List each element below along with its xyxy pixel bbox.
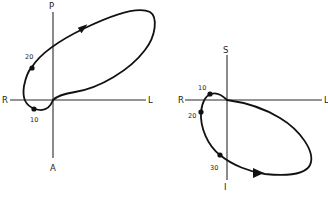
right-direction-arrow-icon: [253, 168, 264, 178]
left-point-20-marker: [29, 65, 34, 70]
left-axis-label-top: P: [49, 1, 54, 11]
left-loop-curve: [23, 10, 154, 110]
right-vector-loop-diagram: S I R L 10 20 30: [178, 45, 328, 192]
right-point-20-marker: [198, 109, 203, 114]
right-axis-label-bottom: I: [224, 182, 227, 192]
vector-loop-figure: P A R L 10 20 S I R L 10 20 30: [0, 0, 328, 205]
left-point-10-marker: [31, 106, 36, 111]
left-point-20-label: 20: [25, 53, 33, 61]
left-axis-label-right: L: [148, 95, 153, 105]
right-point-10-label: 10: [198, 84, 206, 92]
left-axis-label-bottom: A: [50, 163, 56, 173]
right-loop-curve: [201, 93, 311, 174]
right-point-10-marker: [207, 91, 212, 96]
left-direction-arrow-icon: [77, 24, 88, 33]
right-point-30-label: 30: [210, 164, 218, 172]
right-point-20-label: 20: [188, 112, 196, 120]
right-axis-label-top: S: [223, 45, 228, 55]
right-axis-label-left: R: [178, 95, 184, 105]
left-vector-loop-diagram: P A R L 10 20: [2, 1, 155, 173]
right-point-30-marker: [217, 152, 222, 157]
left-axis-label-left: R: [2, 95, 8, 105]
left-point-10-label: 10: [30, 116, 38, 124]
right-axis-label-right: L: [324, 95, 328, 105]
